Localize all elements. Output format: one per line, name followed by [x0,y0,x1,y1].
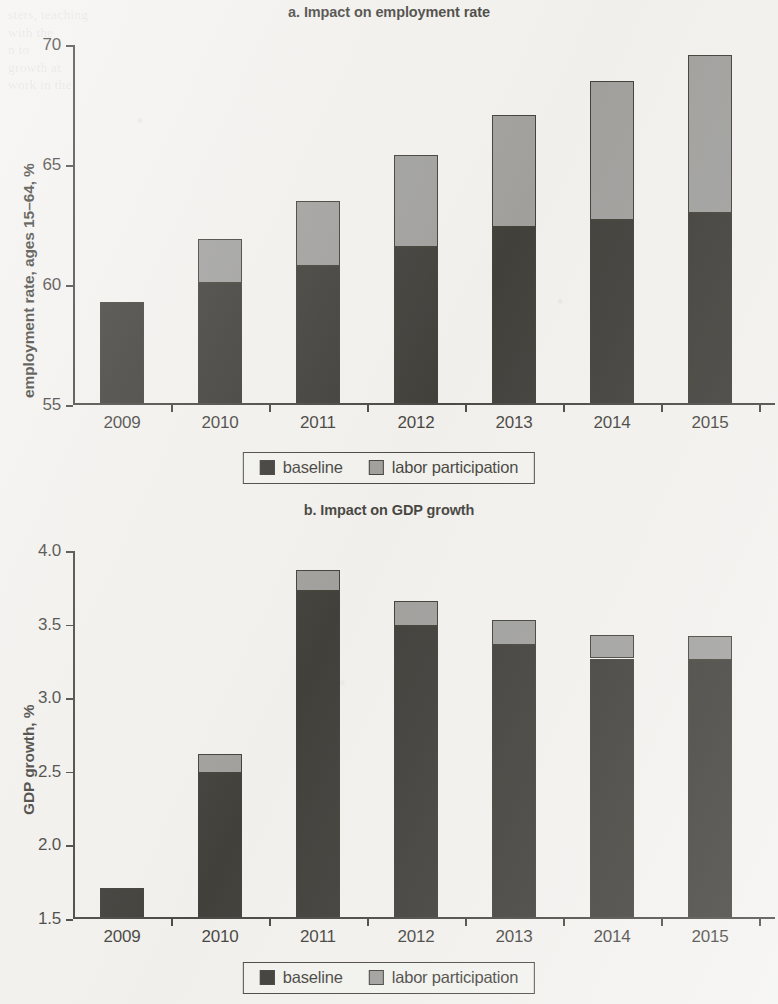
legend-label-labor-participation: labor participation [392,458,518,477]
chart-panel-employment: a. Impact on employment rate employment … [0,0,778,497]
chart-title-gdp: b. Impact on GDP growth [0,502,778,518]
legend-entry-baseline: baseline [260,458,343,477]
bar-segment-baseline [394,247,438,405]
x-tick-mark [269,405,271,412]
bar-segment-labor-participation [688,55,732,213]
y-tick-mark [66,625,73,627]
x-tick-label: 2011 [300,927,336,947]
bar-segment-labor-participation [198,754,242,773]
y-tick-label: 60 [21,275,61,295]
x-tick-mark [661,405,663,412]
bar-segment-labor-participation [296,570,340,591]
bar-segment-labor-participation [590,635,634,659]
bar-segment-labor-participation [296,201,340,266]
bar-stack [492,45,536,405]
x-tick-label: 2012 [397,413,434,433]
bar-segment-baseline [198,283,242,405]
x-tick-label: 2014 [593,413,630,433]
bar-segment-labor-participation [394,601,438,626]
y-tick-mark [66,698,73,700]
legend-entry-labor-participation: labor participation [369,968,518,987]
bar-segment-baseline [492,227,536,405]
bar-segment-baseline [296,591,340,919]
chart-title-employment: a. Impact on employment rate [0,4,778,20]
x-tick-label: 2015 [691,413,728,433]
bar-segment-baseline [296,266,340,405]
bar-segment-baseline [100,888,144,919]
bar-segment-labor-participation [492,620,536,645]
legend-label-baseline: baseline [283,968,343,987]
bar-stack [688,551,732,919]
y-tick-mark [66,45,73,47]
x-tick-mark [563,405,565,412]
x-tick-mark [171,919,173,926]
y-tick-mark [66,405,73,407]
bar-segment-baseline [198,773,242,919]
bar-segment-baseline [394,626,438,919]
y-tick-label: 70 [21,35,61,55]
bar-stack [394,551,438,919]
bar-segment-baseline [492,645,536,919]
x-tick-mark [367,919,369,926]
y-tick-label: 3.5 [15,615,61,635]
bar-stack [100,551,144,919]
bar-segment-labor-participation [198,239,242,282]
x-tick-mark [759,405,761,412]
x-tick-label: 2013 [495,927,532,947]
x-tick-label: 2012 [397,927,434,947]
bar-stack [296,551,340,919]
bar-stack [100,45,144,405]
y-tick-mark [66,285,73,287]
legend-label-baseline: baseline [283,458,343,477]
x-tick-mark [465,919,467,926]
legend-swatch-baseline-icon [260,970,275,985]
x-tick-mark [171,405,173,412]
y-tick-label: 65 [21,155,61,175]
bar-segment-baseline [590,220,634,405]
bar-segment-labor-participation [590,81,634,220]
y-tick-mark [66,772,73,774]
x-tick-mark [367,405,369,412]
bar-stack [688,45,732,405]
x-tick-label: 2009 [103,413,140,433]
x-tick-mark [759,919,761,926]
bar-stack [394,45,438,405]
y-axis-line-gdp [73,551,75,919]
bar-stack [492,551,536,919]
x-axis-line-gdp [73,917,775,919]
legend-entry-labor-participation: labor participation [369,458,518,477]
bar-stack [590,45,634,405]
x-tick-mark [563,919,565,926]
x-tick-label: 2010 [201,413,238,433]
x-tick-mark [269,919,271,926]
y-tick-label: 2.0 [15,835,61,855]
y-tick-mark [66,165,73,167]
y-tick-label: 1.5 [15,909,61,929]
plot-area-gdp: 1.5 2.0 2.5 3.0 3.5 4.0 2009 2010 2011 2… [73,551,773,919]
chart-legend-employment: baseline labor participation [243,452,535,484]
bar-stack [590,551,634,919]
x-tick-mark [661,919,663,926]
bar-segment-baseline [100,302,144,405]
legend-label-labor-participation: labor participation [392,968,518,987]
legend-swatch-baseline-icon [260,460,275,475]
x-tick-label: 2009 [103,927,140,947]
bar-segment-baseline [688,213,732,405]
y-axis-line-employment [73,45,75,405]
x-tick-label: 2013 [495,413,532,433]
x-tick-label: 2014 [593,927,630,947]
x-axis-line-employment [73,403,775,405]
legend-entry-baseline: baseline [260,968,343,987]
x-tick-label: 2015 [691,927,728,947]
bar-stack [198,551,242,919]
y-tick-mark [66,845,73,847]
legend-swatch-labor-participation-icon [369,460,384,475]
y-axis-title-gdp: GDP growth, % [20,705,38,815]
bar-segment-labor-participation [688,636,732,660]
y-tick-label: 4.0 [15,541,61,561]
bar-segment-labor-participation [492,115,536,228]
x-tick-mark [465,405,467,412]
y-tick-label: 3.0 [15,688,61,708]
legend-swatch-labor-participation-icon [369,970,384,985]
y-tick-label: 55 [21,395,61,415]
